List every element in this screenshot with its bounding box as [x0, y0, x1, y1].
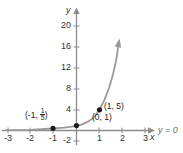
- x-tick-neg3: -3: [1, 134, 15, 143]
- y-tick-8: 8: [54, 84, 71, 93]
- plot-canvas: [0, 0, 183, 153]
- point-label-origin: (0, 1): [92, 113, 112, 122]
- point-neg1: [50, 126, 55, 131]
- point-label-neg1: (-1, 15): [25, 108, 48, 123]
- x-tick-neg1: -1: [46, 134, 60, 143]
- fraction-denominator: 5: [40, 115, 45, 122]
- y-tick-16: 16: [54, 42, 71, 51]
- x-tick-2: 2: [116, 134, 129, 143]
- point-label-1-5: (1, 5): [104, 102, 124, 111]
- y-tick-20: 20: [54, 21, 71, 30]
- fraction-one-fifth: 15: [40, 108, 45, 123]
- point-0-1: [74, 123, 79, 128]
- x-tick-1: 1: [93, 134, 106, 143]
- point-label-neg1-close: ): [45, 110, 48, 120]
- y-tick-4: 4: [54, 105, 71, 114]
- y-tick-12: 12: [54, 63, 71, 72]
- x-tick-3: 3: [139, 134, 152, 143]
- exponential-graph-figure: y x 20 16 12 8 4 -2 -3 -2 -1 1 2 3 (-1, …: [0, 0, 183, 153]
- asymptote-label: y = 0: [158, 126, 178, 135]
- x-tick-neg2: -2: [23, 134, 37, 143]
- y-axis-label: y: [66, 6, 71, 15]
- point-label-neg1-open: (-1,: [25, 110, 40, 120]
